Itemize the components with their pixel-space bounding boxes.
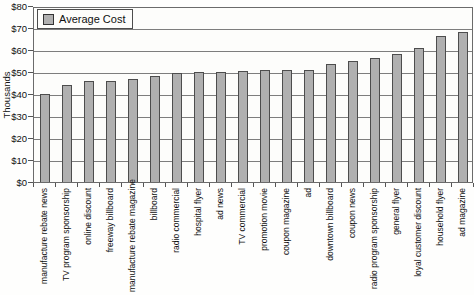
bar	[370, 58, 380, 182]
y-tick-label: $30	[0, 111, 27, 122]
bar	[458, 32, 468, 182]
x-tick-mark	[143, 183, 144, 187]
bar	[194, 72, 204, 182]
legend-label: Average Cost	[59, 13, 125, 25]
y-tick-mark	[28, 116, 33, 117]
bar	[84, 81, 94, 182]
bar	[172, 73, 182, 182]
bar	[260, 70, 270, 182]
y-tick-mark	[28, 138, 33, 139]
x-axis-label: radio commercial	[171, 188, 182, 292]
bar	[414, 48, 424, 182]
gridline	[34, 73, 472, 74]
x-tick-mark	[231, 183, 232, 187]
x-axis-label: ad news	[215, 188, 226, 292]
bar	[216, 72, 226, 182]
x-axis-label: coupon news	[347, 188, 358, 292]
gridline	[34, 139, 472, 140]
bar	[392, 54, 402, 182]
bar	[238, 71, 248, 182]
x-tick-mark	[297, 183, 298, 187]
legend: Average Cost	[37, 9, 133, 29]
bar	[304, 70, 314, 182]
y-tick-mark	[28, 50, 33, 51]
x-axis-label: general flyer	[391, 188, 402, 292]
x-tick-mark	[385, 183, 386, 187]
y-tick-label: $0	[0, 177, 27, 188]
x-tick-mark	[341, 183, 342, 187]
x-axis-label: freeway billboard	[105, 188, 116, 292]
y-tick-mark	[28, 94, 33, 95]
x-axis-label: loyal customer discount	[413, 188, 424, 292]
x-tick-mark	[187, 183, 188, 187]
y-tick-label: $20	[0, 133, 27, 144]
x-axis-label: radio program sponsorship	[369, 188, 380, 292]
x-tick-mark	[99, 183, 100, 187]
legend-swatch-icon	[43, 14, 54, 25]
x-tick-mark	[77, 183, 78, 187]
bar	[62, 85, 72, 182]
y-tick-label: $40	[0, 89, 27, 100]
y-tick-label: $70	[0, 23, 27, 34]
bar	[282, 70, 292, 182]
x-tick-mark	[253, 183, 254, 187]
x-axis-label: TV commercial	[237, 188, 248, 292]
x-axis-label: promotion movie	[259, 188, 270, 292]
gridline	[34, 161, 472, 162]
gridline	[34, 29, 472, 30]
x-axis-label: TV program sponsorship	[61, 188, 72, 292]
bar	[40, 94, 50, 182]
y-tick-label: $10	[0, 155, 27, 166]
x-tick-mark	[407, 183, 408, 187]
x-axis-label: ad magazine	[457, 188, 468, 292]
y-tick-label: $60	[0, 45, 27, 56]
bar	[150, 76, 160, 182]
x-tick-mark	[429, 183, 430, 187]
x-axis-label: manufacture rebate magazine	[127, 188, 138, 292]
x-axis-label: billboard	[149, 188, 160, 292]
bar	[106, 81, 116, 182]
x-tick-mark	[121, 183, 122, 187]
bar	[326, 64, 336, 182]
y-tick-mark	[28, 6, 33, 7]
x-tick-mark	[209, 183, 210, 187]
y-tick-label: $80	[0, 1, 27, 12]
x-tick-mark	[165, 183, 166, 187]
y-tick-mark	[28, 72, 33, 73]
x-axis-label: ad	[303, 188, 314, 292]
x-tick-mark	[319, 183, 320, 187]
x-tick-mark	[275, 183, 276, 187]
bar	[128, 79, 138, 182]
x-tick-mark	[33, 183, 34, 187]
x-axis-label: coupon magazine	[281, 188, 292, 292]
y-tick-label: $50	[0, 67, 27, 78]
x-axis-label: hospital flyer	[193, 188, 204, 292]
x-tick-mark	[451, 183, 452, 187]
gridline	[34, 95, 472, 96]
x-axis-label: online discount	[83, 188, 94, 292]
gridline	[34, 51, 472, 52]
x-tick-mark	[363, 183, 364, 187]
x-axis-label: manufacture rebate news	[39, 188, 50, 292]
x-axis-label: downtown billboard	[325, 188, 336, 292]
bar	[436, 36, 446, 182]
x-axis-label: household flyer	[435, 188, 446, 292]
gridline	[34, 117, 472, 118]
plot-area	[33, 7, 473, 183]
y-tick-mark	[28, 160, 33, 161]
average-cost-bar-chart: Thousands $0$10$20$30$40$50$60$70$80manu…	[0, 0, 474, 295]
x-tick-mark	[55, 183, 56, 187]
y-tick-mark	[28, 28, 33, 29]
bar	[348, 61, 358, 182]
